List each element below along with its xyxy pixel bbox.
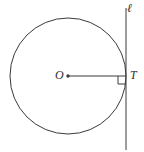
right-angle-mark-icon — [118, 76, 126, 84]
center-dot-icon — [66, 74, 69, 77]
geometry-canvas — [0, 0, 144, 152]
label-line-ell: ℓ — [127, 2, 132, 14]
geometry-figure: O T ℓ — [0, 0, 144, 152]
label-tangent-point-t: T — [130, 69, 137, 81]
label-center-o: O — [55, 69, 64, 81]
